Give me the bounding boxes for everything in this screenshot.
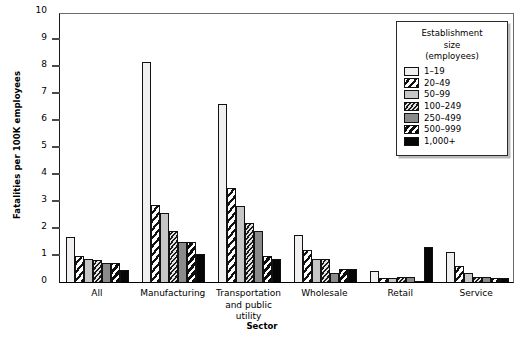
bar: [415, 281, 424, 282]
legend: Establishment size (employees) 1–1920–49…: [396, 21, 508, 156]
y-tick-mark: [52, 146, 60, 147]
y-tick-mark: [52, 38, 60, 39]
bar: [446, 252, 455, 282]
bar: [388, 278, 397, 282]
legend-label: 50–99: [424, 90, 450, 99]
bar: [84, 259, 93, 282]
bar: [339, 269, 348, 283]
legend-entries: 1–1920–4950–99100–249250–499500–9991,000…: [404, 67, 500, 147]
bar: [294, 235, 303, 282]
legend-title: Establishment size (employees): [404, 28, 500, 63]
x-axis-title: Sector: [0, 321, 524, 331]
bar: [93, 260, 102, 282]
bar: [348, 269, 357, 283]
bar: [491, 278, 500, 282]
bar: [303, 250, 312, 282]
y-tick-mark: [52, 11, 60, 12]
legend-item: 20–49: [404, 78, 500, 88]
y-tick-mark: [52, 200, 60, 201]
bar: [330, 273, 339, 282]
x-tick-label: Manufacturing: [135, 288, 211, 300]
y-tick-label: 3: [27, 195, 47, 204]
y-tick-mark: [52, 254, 60, 255]
fatalities-bar-chart: Fatalities per 100K employees 0123456789…: [0, 0, 524, 341]
legend-label: 20–49: [424, 79, 450, 88]
legend-item: 50–99: [404, 90, 500, 100]
legend-label: 100–249: [424, 102, 461, 111]
legend-item: 250–499: [404, 113, 500, 123]
bar: [160, 213, 169, 282]
y-tick-label: 0: [27, 276, 47, 285]
bar: [263, 256, 272, 282]
legend-swatch: [404, 137, 419, 147]
y-tick-mark: [52, 92, 60, 93]
legend-label: 1,000+: [424, 137, 456, 146]
bar: [120, 270, 129, 282]
bar-group: [288, 14, 364, 282]
bar: [111, 263, 120, 282]
y-tick-label: 7: [27, 87, 47, 96]
legend-item: 1,000+: [404, 137, 500, 147]
y-tick-label: 2: [27, 222, 47, 231]
bar: [196, 254, 205, 282]
y-tick-mark: [52, 119, 60, 120]
bar: [245, 223, 254, 282]
y-axis-title: Fatalities per 100K employees: [12, 40, 22, 250]
bar-group: [136, 14, 212, 282]
x-tick-label: Transportation and public utility: [211, 288, 287, 323]
bar: [482, 277, 491, 282]
bar: [406, 277, 415, 282]
bar: [236, 206, 245, 282]
bar: [142, 62, 151, 282]
x-tick-label: Wholesale: [287, 288, 363, 300]
bar: [379, 278, 388, 282]
y-tick-label: 9: [27, 33, 47, 42]
bar: [75, 256, 84, 282]
y-tick-label: 8: [27, 60, 47, 69]
bar: [321, 259, 330, 282]
y-tick-mark: [52, 65, 60, 66]
y-tick-mark: [52, 227, 60, 228]
bar: [455, 266, 464, 282]
y-tick-mark: [52, 173, 60, 174]
legend-label: 1–19: [424, 67, 445, 76]
y-tick-label: 4: [27, 168, 47, 177]
y-tick-mark: [52, 281, 60, 282]
legend-label: 500–999: [424, 125, 461, 134]
bar: [102, 263, 111, 282]
bar: [464, 273, 473, 282]
x-tick-label: Service: [438, 288, 514, 300]
bar: [187, 242, 196, 283]
legend-swatch: [404, 78, 419, 88]
legend-swatch: [404, 90, 419, 100]
bar: [312, 259, 321, 282]
legend-swatch: [404, 113, 419, 123]
y-tick-label: 10: [27, 6, 47, 15]
legend-label: 250–499: [424, 114, 461, 123]
legend-item: 100–249: [404, 102, 500, 112]
bar-group: [212, 14, 288, 282]
bar: [169, 231, 178, 282]
bar: [151, 205, 160, 282]
bar: [424, 247, 433, 282]
bar: [500, 278, 509, 282]
legend-item: 1–19: [404, 67, 500, 77]
bar-group: [60, 14, 136, 282]
bar: [370, 271, 379, 282]
x-tick-label: Retail: [362, 288, 438, 300]
bar: [397, 277, 406, 282]
bar: [272, 259, 281, 282]
y-tick-label: 6: [27, 114, 47, 123]
legend-swatch: [404, 67, 419, 77]
legend-swatch: [404, 102, 419, 112]
bar: [254, 231, 263, 282]
bar: [66, 237, 75, 282]
x-tick-label: All: [59, 288, 135, 300]
bar: [227, 188, 236, 283]
y-tick-label: 5: [27, 141, 47, 150]
bar: [178, 242, 187, 283]
legend-swatch: [404, 125, 419, 135]
bar: [218, 104, 227, 282]
legend-item: 500–999: [404, 125, 500, 135]
y-tick-label: 1: [27, 249, 47, 258]
